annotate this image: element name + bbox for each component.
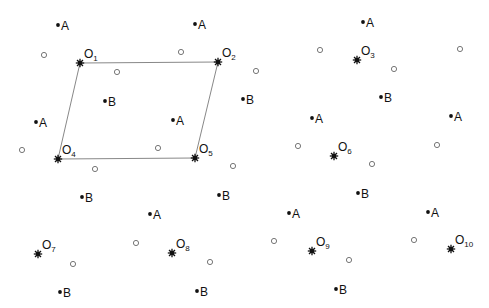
dot-icon bbox=[426, 210, 430, 214]
point-a: A bbox=[449, 110, 462, 124]
point-b: B bbox=[80, 191, 93, 205]
open-circle-point bbox=[391, 66, 396, 71]
point-a: A bbox=[426, 206, 439, 220]
asterisk-icon bbox=[54, 155, 62, 163]
dot-icon bbox=[34, 120, 38, 124]
point-b: B bbox=[217, 189, 230, 203]
point-b: B bbox=[195, 285, 208, 299]
asterisk-icon bbox=[353, 56, 361, 64]
center-o4: O4 bbox=[54, 143, 77, 163]
dot-icon bbox=[56, 23, 60, 27]
open-circle-point bbox=[271, 238, 276, 243]
open-circle-point bbox=[70, 261, 75, 266]
point-label: B bbox=[339, 283, 347, 297]
point-label: A bbox=[176, 114, 184, 128]
point-label: B bbox=[246, 93, 254, 107]
dot-icon bbox=[103, 99, 107, 103]
center-o2: O2 bbox=[214, 46, 237, 66]
dot-icon bbox=[171, 118, 175, 122]
asterisk-icon bbox=[76, 59, 84, 67]
dot-icon bbox=[241, 97, 245, 101]
point-a: A bbox=[310, 112, 323, 126]
point-b: B bbox=[379, 91, 392, 105]
center-label: O3 bbox=[361, 44, 375, 60]
open-circle-point bbox=[253, 68, 258, 73]
center-label: O7 bbox=[42, 238, 56, 254]
asterisk-icon bbox=[34, 250, 42, 258]
point-label: A bbox=[61, 19, 69, 33]
dot-icon bbox=[379, 95, 383, 99]
center-o10: O10 bbox=[447, 233, 474, 253]
point-label: B bbox=[361, 187, 369, 201]
point-b: B bbox=[103, 95, 116, 109]
center-label: O1 bbox=[84, 47, 98, 63]
center-label: O6 bbox=[338, 140, 352, 156]
point-label: B bbox=[108, 95, 116, 109]
center-o7: O7 bbox=[34, 238, 57, 258]
center-points: O1O2O3O4O5O6O7O8O9O10 bbox=[34, 44, 474, 258]
point-a: A bbox=[148, 208, 161, 222]
asterisk-icon bbox=[214, 58, 222, 66]
center-label: O9 bbox=[316, 235, 330, 251]
dot-icon bbox=[361, 20, 365, 24]
open-circle-point bbox=[295, 143, 300, 148]
point-label: A bbox=[454, 110, 462, 124]
lattice-diagram: AAAAAAAAAA BBBBBBBBB O1O2O3O4O5O6O7O8O9O… bbox=[0, 0, 489, 308]
dot-icon bbox=[356, 191, 360, 195]
dot-icon bbox=[449, 114, 453, 118]
center-label: O8 bbox=[176, 237, 190, 253]
center-label: O5 bbox=[199, 142, 213, 158]
center-o6: O6 bbox=[330, 140, 353, 160]
center-o9: O9 bbox=[308, 235, 331, 255]
point-label: B bbox=[85, 191, 93, 205]
center-o8: O8 bbox=[168, 237, 191, 257]
point-a: A bbox=[287, 207, 300, 221]
point-label: B bbox=[384, 91, 392, 105]
dot-icon bbox=[195, 289, 199, 293]
point-label: B bbox=[222, 189, 230, 203]
open-circle-point bbox=[155, 145, 160, 150]
point-label: B bbox=[200, 285, 208, 299]
asterisk-icon bbox=[330, 152, 338, 160]
dot-icon bbox=[310, 116, 314, 120]
open-circle-point bbox=[411, 237, 416, 242]
dot-icon bbox=[58, 290, 62, 294]
center-o5: O5 bbox=[191, 142, 214, 162]
asterisk-icon bbox=[191, 154, 199, 162]
point-a: A bbox=[34, 116, 47, 130]
asterisk-icon bbox=[308, 247, 316, 255]
point-b: B bbox=[334, 283, 347, 297]
points-b: BBBBBBBBB bbox=[58, 91, 392, 300]
open-circle-point bbox=[207, 259, 212, 264]
point-label: A bbox=[366, 16, 374, 30]
open-circle-point bbox=[178, 49, 183, 54]
open-circle-point bbox=[434, 142, 439, 147]
point-label: A bbox=[431, 206, 439, 220]
asterisk-icon bbox=[447, 245, 455, 253]
point-b: B bbox=[356, 187, 369, 201]
open-circle-point bbox=[369, 161, 374, 166]
center-label: O4 bbox=[62, 143, 76, 159]
open-circle-point bbox=[230, 163, 235, 168]
dot-icon bbox=[334, 287, 338, 291]
point-label: A bbox=[292, 207, 300, 221]
open-circle-points bbox=[19, 46, 462, 266]
center-label: O2 bbox=[222, 46, 236, 62]
point-label: B bbox=[63, 286, 71, 300]
open-circle-point bbox=[457, 46, 462, 51]
parallelogram-cell bbox=[58, 62, 218, 159]
point-label: A bbox=[315, 112, 323, 126]
dot-icon bbox=[287, 211, 291, 215]
points-a: AAAAAAAAAA bbox=[34, 16, 462, 222]
point-a: A bbox=[171, 114, 184, 128]
center-o3: O3 bbox=[353, 44, 376, 64]
center-label: O10 bbox=[455, 233, 474, 249]
open-circle-point bbox=[41, 52, 46, 57]
dot-icon bbox=[148, 212, 152, 216]
open-circle-point bbox=[346, 257, 351, 262]
open-circle-point bbox=[133, 240, 138, 245]
point-a: A bbox=[193, 18, 206, 32]
point-label: A bbox=[39, 116, 47, 130]
point-a: A bbox=[56, 19, 69, 33]
point-b: B bbox=[58, 286, 71, 300]
